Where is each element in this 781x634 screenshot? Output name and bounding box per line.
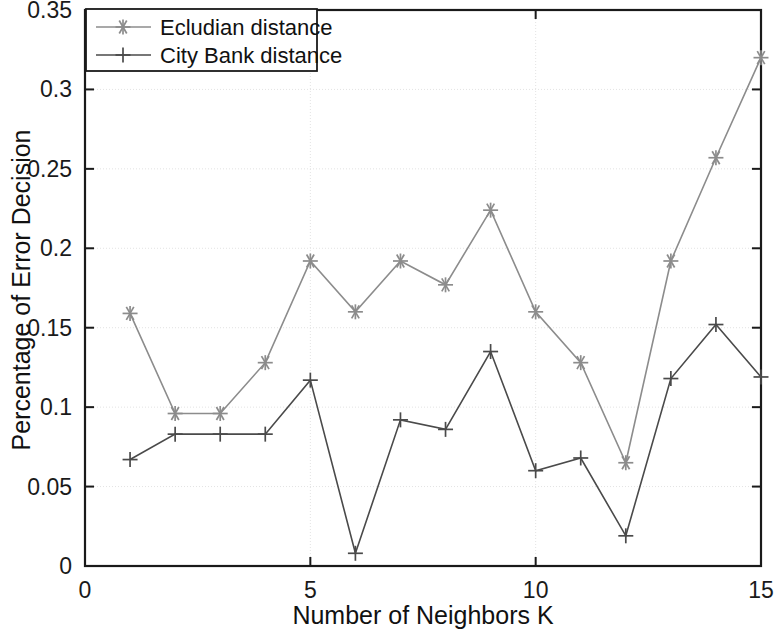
y-tick-label: 0.05 bbox=[27, 474, 72, 500]
y-tick-label: 0.1 bbox=[40, 394, 72, 420]
chart-background bbox=[0, 0, 781, 634]
x-axis-label: Number of Neighbors K bbox=[292, 601, 554, 629]
chart-figure: 00.050.10.150.20.250.30.35 051015 Ecludi… bbox=[0, 0, 781, 634]
y-tick-label: 0.3 bbox=[40, 76, 72, 102]
legend-entry-label: Ecludian distance bbox=[160, 15, 332, 40]
y-tick-label: 0.2 bbox=[40, 235, 72, 261]
chart-legend: Ecludian distanceCity Bank distance bbox=[86, 9, 342, 71]
x-tick-label: 15 bbox=[748, 577, 774, 603]
legend-entry-label: City Bank distance bbox=[160, 43, 342, 68]
y-axis-label: Percentage of Error Decision bbox=[7, 130, 35, 451]
x-tick-label: 10 bbox=[523, 577, 549, 603]
x-tick-label: 0 bbox=[79, 577, 92, 603]
y-tick-label: 0.35 bbox=[27, 0, 72, 23]
y-tick-label: 0 bbox=[59, 553, 72, 579]
error-decision-line-chart: 00.050.10.150.20.250.30.35 051015 Ecludi… bbox=[0, 0, 781, 634]
x-tick-label: 5 bbox=[304, 577, 317, 603]
